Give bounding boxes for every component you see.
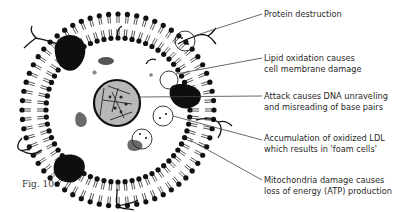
- label-oxidized-ldl: Accumulation of oxidized LDL which resul…: [264, 133, 385, 154]
- nucleus: [94, 80, 140, 126]
- label-mitochondria-damage: Mitochondria damage causes loss of energ…: [264, 175, 392, 196]
- label-line: Protein destruction: [264, 9, 342, 20]
- label-line: Attack causes DNA unraveling: [264, 91, 388, 102]
- label-line: and misreading of base pairs: [264, 102, 388, 113]
- label-lipid-oxidation: Lipid oxidation causes cell membrane dam…: [264, 53, 362, 74]
- label-dna-attack: Attack causes DNA unraveling and misread…: [264, 91, 388, 112]
- label-line: loss of energy (ATP) production: [264, 186, 392, 197]
- label-line: Mitochondria damage causes: [264, 175, 392, 186]
- label-line: Lipid oxidation causes: [264, 53, 362, 64]
- label-protein-destruction: Protein destruction: [264, 9, 342, 20]
- label-line: which results in 'foam cells': [264, 144, 385, 155]
- figure-caption: Fig. 10: [22, 179, 54, 189]
- label-line: cell membrane damage: [264, 64, 362, 75]
- label-line: Accumulation of oxidized LDL: [264, 133, 385, 144]
